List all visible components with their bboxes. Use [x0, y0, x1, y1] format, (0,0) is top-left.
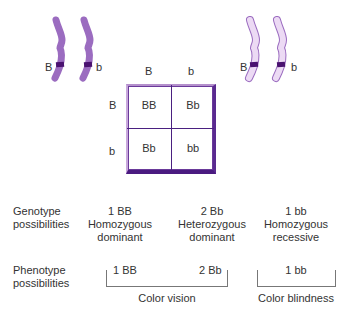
- punnett-cell: bb: [171, 142, 215, 154]
- phenotype-item: 2 Bb: [199, 264, 222, 277]
- genotype-item: 1 bb Homozygous recessive: [256, 205, 336, 244]
- chromosome-icon: [249, 20, 258, 78]
- chromosome-icon: [83, 20, 92, 78]
- chromosome-icon: [276, 20, 285, 78]
- punnett-cell: BB: [127, 99, 171, 111]
- column-header: B: [145, 65, 152, 78]
- punnett-cell: Bb: [171, 99, 215, 111]
- chromosome-icon: [55, 20, 64, 78]
- phenotype-item: 1 BB: [113, 264, 137, 277]
- phenotype-label: Phenotype possibilities: [13, 264, 69, 290]
- genotype-item: 1 BB Homozygous dominant: [80, 205, 160, 244]
- punnett-cell: Bb: [127, 142, 171, 154]
- phenotype-group-label: Color vision: [106, 292, 228, 305]
- row-header: b: [109, 145, 115, 158]
- row-header: B: [109, 99, 116, 112]
- grid-divider-horizontal: [127, 128, 214, 129]
- allele-label: B: [240, 61, 247, 74]
- column-header: b: [188, 65, 194, 78]
- genotype-label: Genotype possibilities: [13, 205, 69, 231]
- phenotype-item: 1 bb: [257, 264, 335, 277]
- phenotype-group-label: Color blindness: [250, 292, 342, 305]
- allele-label: b: [96, 61, 102, 74]
- genotype-item: 2 Bb Heterozygous dominant: [172, 205, 252, 244]
- allele-label: b: [291, 61, 297, 74]
- allele-label: B: [45, 61, 52, 74]
